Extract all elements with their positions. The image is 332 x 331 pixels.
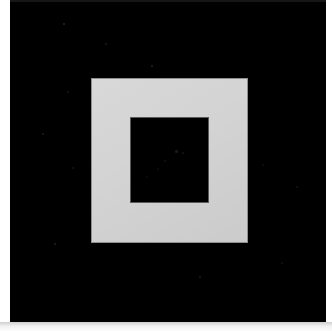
sensor-noise-layer [0, 0, 332, 331]
noise-speck [105, 43, 107, 45]
noise-speck [67, 91, 69, 93]
bottom-backdrop-margin [0, 322, 332, 331]
noise-speck [146, 176, 148, 178]
noise-speck [296, 186, 298, 188]
noise-speck [72, 167, 74, 169]
right-backdrop-margin [326, 0, 332, 331]
noise-speck [151, 65, 153, 67]
noise-speck [281, 262, 283, 264]
noise-speck [199, 276, 201, 278]
noise-speck [54, 243, 56, 245]
noise-speck [164, 160, 166, 162]
noise-speck [262, 164, 264, 166]
noise-speck [182, 152, 184, 154]
noise-speck [157, 168, 159, 170]
image-canvas [0, 0, 332, 331]
noise-speck [42, 133, 44, 135]
left-backdrop-margin [0, 0, 10, 331]
noise-speck [175, 150, 178, 153]
noise-speck [63, 23, 65, 25]
